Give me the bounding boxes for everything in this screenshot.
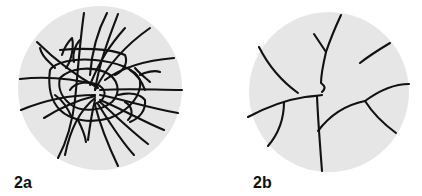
panel-2a-drawing — [18, 6, 182, 170]
panel-2b-drawing — [248, 12, 409, 172]
figure-drawing — [0, 0, 422, 196]
panel-2b-label: 2b — [253, 175, 272, 191]
figure: 2a 2b — [0, 0, 422, 196]
panel-2b-circle — [249, 12, 409, 172]
panel-2a-label: 2a — [14, 175, 32, 191]
